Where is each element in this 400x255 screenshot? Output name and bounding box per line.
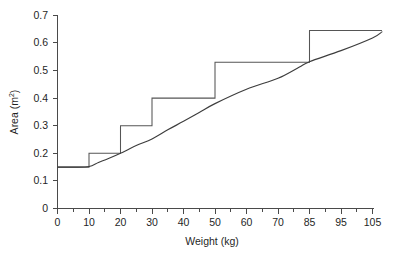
y-tick-label-6: 0.6 bbox=[33, 36, 48, 48]
y-tick-label-4: 0.4 bbox=[33, 92, 48, 104]
x-tick-label-10: 105 bbox=[364, 216, 382, 228]
y-tick-label-3: 0.3 bbox=[33, 119, 48, 131]
chart-figure: 0 0.1 0.2 0.3 0.4 0.5 0.6 0.7 bbox=[0, 0, 400, 255]
x-tick-label-9: 95 bbox=[335, 216, 347, 228]
y-tick-label-1: 0.1 bbox=[33, 174, 48, 186]
x-tick-label-0: 0 bbox=[55, 216, 61, 228]
x-axis-title: Weight (kg) bbox=[185, 235, 239, 247]
y-tick-label-5: 0.5 bbox=[33, 64, 48, 76]
y-tick-label-2: 0.2 bbox=[33, 147, 48, 159]
y-tick-label-7: 0.7 bbox=[33, 9, 48, 21]
x-tick-label-5: 50 bbox=[209, 216, 221, 228]
x-tick-label-4: 40 bbox=[178, 216, 190, 228]
x-tick-label-3: 30 bbox=[146, 216, 158, 228]
x-tick-label-8: 85 bbox=[304, 216, 316, 228]
y-axis-title-close: ) bbox=[8, 90, 20, 94]
y-tick-label-0: 0 bbox=[42, 202, 48, 214]
x-tick-label-2: 20 bbox=[115, 216, 127, 228]
x-tick-label-7: 70 bbox=[272, 216, 284, 228]
x-tick-label-1: 10 bbox=[83, 216, 95, 228]
x-tick-label-6: 60 bbox=[241, 216, 253, 228]
y-axis-title-base: Area (m bbox=[8, 97, 20, 135]
area-vs-weight-chart: 0 0.1 0.2 0.3 0.4 0.5 0.6 0.7 bbox=[0, 0, 400, 255]
